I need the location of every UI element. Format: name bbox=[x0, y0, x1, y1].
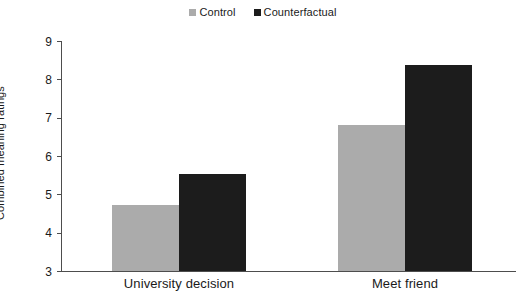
legend-swatch-counterfactual bbox=[254, 9, 261, 16]
bar-university-decision-control bbox=[112, 205, 179, 271]
y-tick-label-4: 4 bbox=[45, 227, 52, 239]
x-axis-line bbox=[61, 271, 516, 272]
legend-label-control: Control bbox=[199, 7, 235, 18]
legend-label-counterfactual: Counterfactual bbox=[264, 7, 337, 18]
y-tick-6: 6 bbox=[57, 156, 62, 157]
legend-item-counterfactual: Counterfactual bbox=[254, 7, 337, 18]
y-tick-label-9: 9 bbox=[45, 36, 52, 48]
bar-meet-friend-counterfactual bbox=[405, 65, 472, 271]
legend-item-control: Control bbox=[189, 7, 235, 18]
legend-swatch-control bbox=[189, 9, 196, 16]
plot-area: 3456789 University decisionMeet friend bbox=[62, 41, 515, 271]
y-tick-label-5: 5 bbox=[45, 189, 52, 201]
y-tick-5: 5 bbox=[57, 194, 62, 195]
bar-university-decision-counterfactual bbox=[179, 174, 246, 271]
bar-meet-friend-control bbox=[338, 125, 405, 271]
y-tick-label-7: 7 bbox=[45, 112, 52, 124]
y-tick-7: 7 bbox=[57, 118, 62, 119]
chart-legend: Control Counterfactual bbox=[0, 7, 526, 18]
y-tick-label-3: 3 bbox=[45, 266, 52, 278]
x-category-label-meet-friend: Meet friend bbox=[295, 277, 515, 290]
y-tick-label-6: 6 bbox=[45, 151, 52, 163]
y-tick-label-8: 8 bbox=[45, 74, 52, 86]
y-tick-9: 9 bbox=[57, 41, 62, 42]
y-tick-4: 4 bbox=[57, 233, 62, 234]
bar-chart-figure: Control Counterfactual Combined meaning … bbox=[0, 0, 526, 306]
y-axis-title: Combined meaning ratings bbox=[0, 0, 28, 306]
y-tick-3: 3 bbox=[57, 271, 62, 272]
y-tick-8: 8 bbox=[57, 79, 62, 80]
x-category-label-university-decision: University decision bbox=[69, 277, 289, 290]
